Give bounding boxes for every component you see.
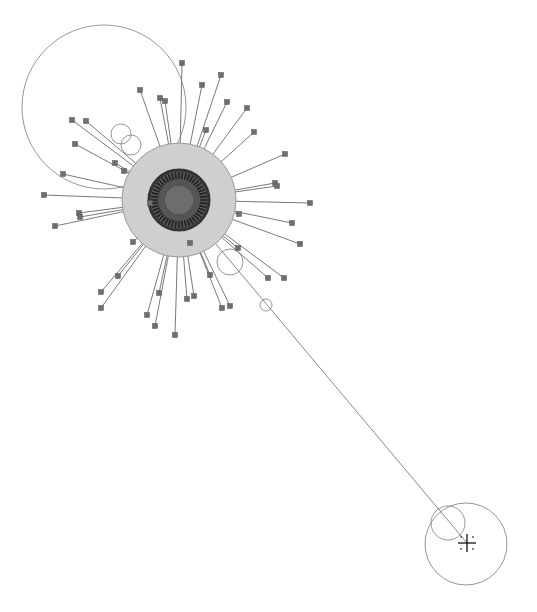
- leaf-node[interactable]: [78, 215, 83, 220]
- leaf-node[interactable]: [237, 212, 242, 217]
- leaf-node[interactable]: [145, 313, 150, 318]
- leaf-node[interactable]: [225, 100, 230, 105]
- crosshair-dot: [460, 536, 462, 538]
- leaf-node[interactable]: [308, 201, 313, 206]
- graph-canvas[interactable]: [0, 0, 537, 612]
- network-graph[interactable]: [0, 0, 537, 612]
- leaf-node[interactable]: [298, 242, 303, 247]
- hub-tick: [151, 196, 158, 197]
- leaf-node[interactable]: [219, 73, 224, 78]
- leaf-node[interactable]: [290, 221, 295, 226]
- leaf-node[interactable]: [122, 169, 127, 174]
- loop-edge: [425, 503, 507, 585]
- leaf-node[interactable]: [99, 290, 104, 295]
- leaf-node[interactable]: [42, 193, 47, 198]
- hub-tick: [182, 172, 183, 179]
- loop-edges: [22, 25, 507, 585]
- long-edge: [179, 200, 467, 543]
- hub-tick: [200, 196, 207, 197]
- leaf-node[interactable]: [84, 119, 89, 124]
- leaf-node[interactable]: [173, 333, 178, 338]
- loop-edge: [121, 135, 141, 155]
- leaf-node[interactable]: [163, 99, 168, 104]
- crosshair-cursor-icon: [458, 534, 476, 552]
- leaf-node[interactable]: [220, 306, 225, 311]
- leaf-node[interactable]: [73, 142, 78, 147]
- leaf-node[interactable]: [157, 291, 162, 296]
- leaf-node[interactable]: [180, 61, 185, 66]
- crosshair-dot: [460, 548, 462, 550]
- leaf-node[interactable]: [204, 128, 209, 133]
- leaf-node[interactable]: [188, 241, 193, 246]
- leaf-node[interactable]: [282, 276, 287, 281]
- leaf-node[interactable]: [113, 161, 118, 166]
- hub-tick: [182, 221, 183, 228]
- leaf-node[interactable]: [116, 274, 121, 279]
- leaf-node[interactable]: [61, 172, 66, 177]
- leaf-node[interactable]: [99, 306, 104, 311]
- leaf-node[interactable]: [158, 96, 163, 101]
- leaf-node[interactable]: [275, 184, 280, 189]
- leaf-node[interactable]: [148, 201, 153, 206]
- hub-tick: [175, 172, 176, 179]
- leaf-node[interactable]: [283, 152, 288, 157]
- leaf-node[interactable]: [245, 106, 250, 111]
- hub-tick: [175, 221, 176, 228]
- hub-node[interactable]: [122, 143, 236, 257]
- leaf-node[interactable]: [228, 304, 233, 309]
- hub-center: [165, 186, 193, 214]
- hub-tick: [200, 203, 207, 204]
- crosshair-dot: [472, 548, 474, 550]
- leaf-node[interactable]: [131, 240, 136, 245]
- leaf-node[interactable]: [185, 297, 190, 302]
- loop-edge: [111, 124, 131, 144]
- crosshair-dot: [472, 536, 474, 538]
- leaf-node[interactable]: [236, 246, 241, 251]
- leaf-node[interactable]: [138, 88, 143, 93]
- leaf-node[interactable]: [153, 324, 158, 329]
- edges: [44, 63, 467, 543]
- leaf-node[interactable]: [252, 130, 257, 135]
- leaf-node[interactable]: [70, 118, 75, 123]
- leaf-node[interactable]: [266, 276, 271, 281]
- leaf-node[interactable]: [200, 83, 205, 88]
- leaf-node[interactable]: [53, 224, 58, 229]
- leaf-node[interactable]: [192, 294, 197, 299]
- leaf-node[interactable]: [208, 273, 213, 278]
